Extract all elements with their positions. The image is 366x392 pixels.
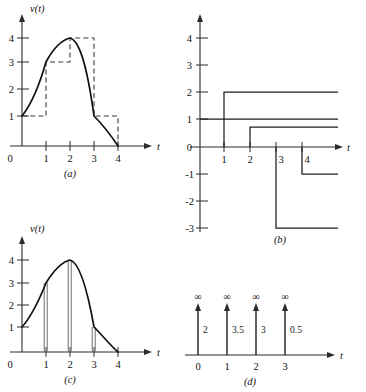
panel-d-xlabel-2: 2 bbox=[253, 361, 258, 372]
panel-d-infinity-label-0: ∞ bbox=[194, 291, 201, 302]
panel-b-x-axis-arrowhead bbox=[335, 144, 343, 150]
panel-a-xlabel-3: 3 bbox=[91, 153, 96, 164]
panel-c-ylabel-4: 4 bbox=[9, 255, 15, 266]
panel-d: ∞ ∞ ∞ ∞ 2 3.5 3 0.5 0 1 2 3 t (d) bbox=[185, 291, 344, 388]
panel-c-y-axis-label: v(t) bbox=[30, 223, 45, 235]
panel-d-x-axis-label: t bbox=[340, 350, 344, 361]
panel-c-xlabel-1: 1 bbox=[43, 359, 48, 370]
panel-c-xlabel-4: 4 bbox=[115, 359, 121, 370]
panel-d-impulse-t2-arrowhead bbox=[253, 303, 259, 311]
panel-c-xlabel-0: 0 bbox=[7, 359, 12, 370]
panel-d-xlabel-1: 1 bbox=[224, 361, 229, 372]
figure-svg: v(t) t 1 2 3 4 0 1 2 3 4 (a) bbox=[0, 0, 366, 392]
panel-b-ylabel-1: 1 bbox=[187, 114, 192, 125]
panel-b-y-axis-arrowhead bbox=[197, 14, 203, 22]
panel-b: t 4 3 2 1 0 -1 -2 -3 1 2 3 4 (b) bbox=[185, 14, 351, 246]
panel-d-impulse-t0-arrowhead bbox=[195, 303, 201, 311]
panel-c-ylabel-1: 1 bbox=[9, 322, 14, 333]
panel-d-weight-label-2: 3 bbox=[261, 325, 266, 335]
panel-a-y-axis-label: v(t) bbox=[30, 3, 45, 15]
panel-b-ylabel-4: 4 bbox=[187, 33, 193, 44]
panel-a: v(t) t 1 2 3 4 0 1 2 3 4 (a) bbox=[7, 3, 161, 180]
panel-b-xlabel-2: 2 bbox=[247, 154, 252, 165]
signal-figure: v(t) t 1 2 3 4 0 1 2 3 4 (a) bbox=[0, 0, 366, 392]
panel-d-infinity-label-1: ∞ bbox=[223, 291, 230, 302]
panel-c-ylabel-3: 3 bbox=[9, 278, 14, 289]
panel-c-spike-t1 bbox=[44, 283, 47, 352]
panel-d-impulse-t3-arrowhead bbox=[282, 303, 288, 311]
panel-d-xlabel-3: 3 bbox=[282, 361, 287, 372]
panel-c-spike-t2 bbox=[68, 260, 71, 352]
panel-d-caption: (d) bbox=[244, 376, 257, 388]
panel-b-ylabel-m1: -1 bbox=[185, 169, 194, 180]
panel-c-x-axis-arrowhead bbox=[144, 349, 152, 355]
panel-b-ylabel-2: 2 bbox=[187, 87, 192, 98]
panel-a-xlabel-2: 2 bbox=[67, 153, 72, 164]
panel-b-xlabel-1: 1 bbox=[221, 154, 226, 165]
panel-d-impulse-t1-arrowhead bbox=[224, 303, 230, 311]
panel-a-ylabel-2: 2 bbox=[9, 84, 14, 95]
panel-a-x-axis-arrowhead bbox=[144, 143, 152, 149]
panel-a-caption: (a) bbox=[64, 168, 77, 180]
panel-a-xlabel-4: 4 bbox=[115, 153, 121, 164]
panel-a-ylabel-1: 1 bbox=[9, 111, 14, 122]
panel-b-step-up-075 bbox=[250, 127, 338, 147]
panel-a-x-axis-label: t bbox=[157, 141, 161, 152]
panel-c-xlabel-3: 3 bbox=[91, 359, 96, 370]
panel-d-infinity-label-2: ∞ bbox=[252, 291, 259, 302]
panel-b-ylabel-m3: -3 bbox=[185, 223, 194, 234]
panel-d-x-axis-arrowhead bbox=[327, 352, 335, 358]
panel-b-xlabel-3: 3 bbox=[278, 154, 283, 165]
panel-b-ylabel-0: 0 bbox=[187, 142, 192, 153]
panel-d-weight-label-0: 2 bbox=[203, 325, 208, 335]
panel-a-xlabel-0: 0 bbox=[7, 153, 12, 164]
panel-c: v(t) t 1 2 3 4 0 1 2 3 4 (c) bbox=[7, 223, 161, 386]
panel-d-infinity-label-3: ∞ bbox=[281, 291, 288, 302]
panel-a-y-axis-arrowhead bbox=[19, 14, 25, 22]
panel-c-x-axis-label: t bbox=[157, 347, 161, 358]
panel-c-caption: (c) bbox=[64, 374, 76, 386]
panel-a-xlabel-1: 1 bbox=[43, 153, 48, 164]
panel-b-ylabel-m2: -2 bbox=[185, 196, 194, 207]
panel-b-x-axis-label: t bbox=[347, 142, 351, 153]
panel-d-xlabel-0: 0 bbox=[195, 361, 200, 372]
panel-d-weight-label-3: 0.5 bbox=[290, 325, 302, 335]
panel-a-ylabel-3: 3 bbox=[9, 57, 14, 68]
panel-c-ylabel-2: 2 bbox=[9, 300, 14, 311]
panel-c-curve bbox=[22, 260, 118, 352]
panel-c-y-axis-arrowhead bbox=[19, 236, 25, 244]
panel-d-weight-label-1: 3.5 bbox=[232, 325, 244, 335]
panel-a-ylabel-4: 4 bbox=[9, 33, 15, 44]
panel-c-xlabel-2: 2 bbox=[67, 359, 72, 370]
panel-b-xlabel-4: 4 bbox=[304, 154, 310, 165]
panel-b-caption: (b) bbox=[274, 234, 287, 246]
panel-b-ylabel-3: 3 bbox=[187, 60, 192, 71]
